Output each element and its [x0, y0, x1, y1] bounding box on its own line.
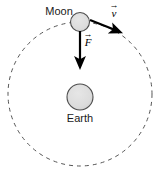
velocity-vector-label: v [112, 7, 117, 19]
earth-body-circle [67, 84, 93, 110]
moon-label: Moon [45, 5, 73, 17]
force-vector-label: F [84, 36, 92, 48]
earth-label: Earth [67, 112, 93, 124]
physics-diagram: Moon Earth → F → v [0, 0, 162, 173]
orbit-diagram-canvas: Moon Earth → F → v [0, 0, 162, 173]
velocity-vector-arrow [90, 20, 117, 31]
